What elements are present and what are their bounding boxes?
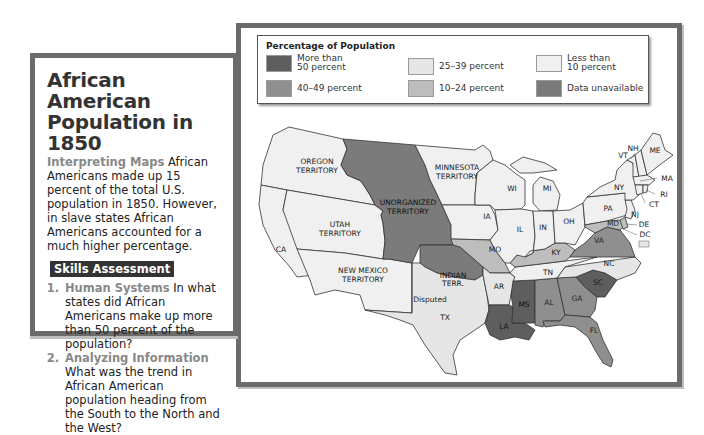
legend-label: 25–39 percent (439, 62, 504, 71)
label-unorganized-1: UNORGANIZED (380, 198, 437, 207)
label-oh: OH (563, 217, 575, 226)
legend-title: Percentage of Population (266, 41, 395, 51)
label-ct: CT (649, 200, 659, 209)
legend-label: Less than 10 percent (567, 54, 616, 72)
label-pa: PA (603, 204, 613, 213)
legend-item-25-39: 25–39 percent (408, 58, 504, 75)
region-mi (533, 177, 560, 211)
label-la: LA (499, 322, 509, 331)
label-minnesota-1: MINNESOTA (435, 163, 480, 172)
label-ny: NY (614, 183, 625, 192)
legend-swatch (266, 55, 292, 72)
legend-swatch (536, 80, 562, 97)
label-ma: MA (661, 174, 673, 183)
label-ri: RI (660, 190, 667, 199)
label-disputed: Disputed (413, 295, 447, 304)
legend-item-data-unavailable: Data unavailable (536, 80, 643, 97)
region-dc-marker (639, 241, 649, 247)
label-sc: SC (593, 278, 603, 287)
label-mo: MO (489, 245, 501, 254)
label-utah-2: TERRITORY (318, 229, 361, 238)
legend-label: Data unavailable (567, 84, 643, 93)
legend-swatch (266, 80, 292, 97)
label-nc: NC (604, 259, 615, 268)
question-item: Analyzing Information What was the trend… (63, 351, 225, 435)
label-unorganized-2: TERRITORY (386, 207, 429, 216)
label-in: IN (539, 223, 547, 232)
question-text: What was the trend in African American p… (65, 365, 220, 435)
legend-label: 10–24 percent (439, 84, 504, 93)
legend-swatch (408, 58, 434, 75)
label-il: IL (517, 225, 524, 234)
legend-item-less-than-10: Less than 10 percent (536, 54, 616, 72)
legend-item-10-24: 10–24 percent (408, 80, 504, 97)
label-de: DE (639, 220, 650, 229)
questions-list: Human Systems In what states did African… (47, 281, 225, 435)
legend-swatch (408, 80, 434, 97)
skills-assessment-header: Skills Assessment (50, 261, 174, 277)
intro-paragraph: Interpreting Maps African Americans made… (47, 155, 225, 253)
label-nj: NJ (631, 210, 639, 219)
us-map-1850: OREGON TERRITORY UNORGANIZED TERRITORY M… (241, 108, 677, 382)
label-utah-1: UTAH (330, 220, 350, 229)
legend-item-40-49: 40–49 percent (266, 80, 362, 97)
region-fl (543, 315, 613, 367)
legend-swatch (536, 55, 562, 72)
label-minnesota-2: TERRITORY (435, 172, 478, 181)
label-fl: FL (590, 326, 599, 335)
label-va: VA (594, 236, 605, 245)
label-ms: MS (518, 300, 529, 309)
legend-item-more-than-50: More than 50 percent (266, 54, 346, 72)
page-title: African American Population in 1850 (47, 70, 225, 154)
intro-text: African Americans made up 15 percent of … (47, 155, 217, 253)
label-tn: TN (542, 268, 553, 277)
region-ri (643, 185, 648, 193)
intro-lead: Interpreting Maps (47, 155, 164, 169)
region-ma (633, 175, 655, 185)
text-panel: African American Population in 1850 Inte… (30, 53, 238, 336)
question-lead: Human Systems (65, 281, 170, 295)
map-panel: Percentage of Population More than 50 pe… (236, 23, 682, 387)
label-mi: MI (543, 184, 552, 193)
label-dc: DC (639, 230, 650, 239)
label-me: ME (649, 146, 660, 155)
label-newmexico-1: NEW MEXICO (338, 266, 388, 275)
label-ga: GA (572, 294, 584, 303)
label-newmexico-2: TERRITORY (341, 275, 384, 284)
label-ky: KY (551, 248, 561, 257)
legend-label: More than 50 percent (297, 54, 346, 72)
label-al: AL (544, 298, 554, 307)
map-legend: Percentage of Population More than 50 pe… (257, 35, 649, 104)
label-tx: TX (439, 313, 450, 322)
label-wi: WI (507, 184, 517, 193)
label-ia: IA (483, 212, 491, 221)
label-oregon-2: TERRITORY (295, 166, 338, 175)
label-nh: NH (627, 144, 638, 153)
question-item: Human Systems In what states did African… (63, 281, 225, 351)
legend-label: 40–49 percent (297, 84, 362, 93)
region-ny (587, 160, 639, 200)
region-mi-upper (510, 157, 557, 173)
label-ar: AR (494, 282, 504, 291)
label-oregon-1: OREGON (300, 157, 333, 166)
label-ca: CA (276, 245, 287, 254)
question-lead: Analyzing Information (65, 351, 209, 365)
label-indian-2: TERR. (441, 279, 464, 288)
label-md: MD (607, 219, 619, 228)
